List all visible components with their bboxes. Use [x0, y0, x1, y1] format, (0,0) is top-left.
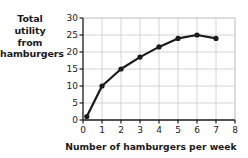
chart-container: Total utility from hamburgers 30 25 20 1…	[0, 0, 248, 158]
data-point-marker	[194, 32, 199, 37]
plot-area	[0, 0, 248, 158]
data-point-marker	[213, 36, 218, 41]
data-point-marker	[156, 44, 161, 49]
data-point-marker	[118, 66, 123, 71]
data-point-marker	[99, 83, 104, 88]
data-point-marker	[84, 114, 89, 119]
data-point-marker	[137, 55, 142, 60]
data-point-marker	[175, 36, 180, 41]
